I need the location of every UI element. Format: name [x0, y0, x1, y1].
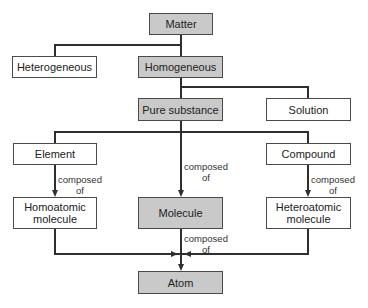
node-label: Solution [289, 104, 329, 116]
label-molecule-to-atom: composed of [184, 233, 228, 255]
arrow-join-left [171, 251, 178, 257]
node-solution: Solution [266, 98, 351, 121]
connector-to-compound [307, 131, 309, 143]
label-text: of [58, 185, 102, 196]
connector-molecule-down [180, 229, 182, 265]
node-pure-substance: Pure substance [138, 98, 223, 121]
label-element-to-homoatomic: composed of [58, 174, 102, 196]
label-text: composed [184, 233, 228, 244]
node-label: Homogeneous [145, 61, 217, 73]
node-label: molecule [286, 213, 330, 225]
connector-matter-split [54, 44, 182, 46]
node-label: Atom [168, 277, 194, 289]
label-text: of [184, 172, 228, 183]
label-compound-to-heteroatomic: composed of [311, 174, 355, 196]
label-text: composed [184, 161, 228, 172]
connector-to-heterogeneous [54, 44, 56, 56]
connector-compound-down [307, 165, 309, 191]
node-label: Heterogeneous [17, 61, 92, 73]
node-element: Element [13, 143, 97, 165]
node-molecule: Molecule [138, 197, 223, 229]
connector-heteroatomic-down [307, 229, 309, 255]
label-text: composed [311, 174, 355, 185]
connector-element-down [54, 165, 56, 191]
node-atom: Atom [138, 271, 223, 294]
node-label: Pure substance [142, 104, 218, 116]
node-homogeneous: Homogeneous [138, 56, 223, 78]
connector-homogeneous-split [180, 86, 309, 88]
node-label: Molecule [158, 207, 202, 219]
label-pure-to-molecule: composed of [184, 161, 228, 183]
arrow-to-atom [178, 264, 184, 271]
node-label: Element [35, 148, 75, 160]
connector-to-solution [307, 86, 309, 98]
node-label: Homoatomic [24, 201, 86, 213]
label-text: composed [58, 174, 102, 185]
label-text: of [184, 244, 228, 255]
node-label: Heteroatomic [276, 201, 341, 213]
node-label: Compound [282, 148, 336, 160]
connector-to-homogeneous [180, 44, 182, 56]
node-label: Matter [165, 18, 196, 30]
arrow-to-molecule [178, 190, 184, 197]
connector-pure-split [54, 131, 309, 133]
connector-homoatomic-down [54, 229, 56, 255]
node-heteroatomic-molecule: Heteroatomic molecule [266, 197, 351, 229]
node-label: molecule [33, 213, 77, 225]
node-homoatomic-molecule: Homoatomic molecule [13, 197, 97, 229]
node-compound: Compound [266, 143, 351, 165]
node-heterogeneous: Heterogeneous [12, 56, 97, 78]
node-matter: Matter [149, 13, 213, 35]
label-text: of [311, 185, 355, 196]
connector-to-element [54, 131, 56, 143]
